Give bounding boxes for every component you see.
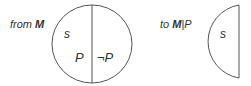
full-model-circle (52, 5, 132, 83)
from-caption: from M (10, 18, 45, 30)
conditioning-diagram: from M s P ¬P to M|P s (0, 0, 251, 86)
label-not-p: ¬P (97, 50, 114, 65)
conditioned-model-half-circle (208, 5, 239, 78)
label-s-left: s (64, 27, 70, 41)
to-caption: to M|P (160, 18, 192, 30)
label-p: P (75, 50, 84, 65)
label-s-right: s (220, 27, 226, 41)
